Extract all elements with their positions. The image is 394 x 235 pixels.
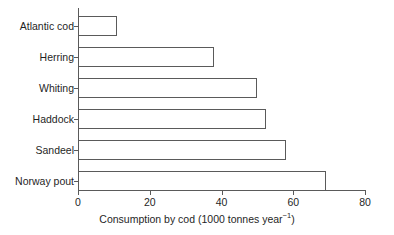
x-axis-title: Consumption by cod (1000 tonnes year−1) <box>0 211 394 225</box>
y-axis-tick <box>74 57 79 58</box>
bar <box>78 16 117 36</box>
bar-rect <box>78 47 214 67</box>
x-axis-tick-label: 0 <box>58 196 98 208</box>
bar-rect <box>78 109 266 129</box>
y-axis-tick <box>74 150 79 151</box>
category-label: Whiting <box>0 78 74 98</box>
bar <box>78 78 257 98</box>
category-label: Herring <box>0 47 74 67</box>
x-axis-tick-label: 60 <box>273 196 313 208</box>
bar <box>78 109 266 129</box>
bar-rect <box>78 171 326 191</box>
x-axis-title-close: ) <box>291 213 295 225</box>
x-axis-tick <box>222 191 223 195</box>
x-axis-tick <box>293 191 294 195</box>
bar-rect <box>78 78 257 98</box>
bar <box>78 140 286 160</box>
category-label: Norway pout <box>0 171 74 191</box>
bar-rect <box>78 140 286 160</box>
x-axis-tick-label: 40 <box>202 196 242 208</box>
x-axis-tick-label: 20 <box>130 196 170 208</box>
x-axis-tick <box>78 191 79 195</box>
x-axis-title-superscript: −1 <box>283 211 292 220</box>
x-axis-tick <box>365 191 366 195</box>
y-axis-tick <box>74 181 79 182</box>
bar-chart: Atlantic codHerringWhitingHaddockSandeel… <box>0 0 394 235</box>
x-axis-tick <box>150 191 151 195</box>
bar <box>78 171 326 191</box>
y-axis-tick <box>74 26 79 27</box>
x-axis-title-main: Consumption by cod (1000 tonnes year <box>99 213 282 225</box>
bar-rect <box>78 16 117 36</box>
category-label: Haddock <box>0 109 74 129</box>
x-axis-tick-label: 80 <box>345 196 385 208</box>
category-label: Atlantic cod <box>0 16 74 36</box>
category-label: Sandeel <box>0 140 74 160</box>
y-axis-tick <box>74 88 79 89</box>
y-axis-tick <box>74 119 79 120</box>
bar <box>78 47 214 67</box>
